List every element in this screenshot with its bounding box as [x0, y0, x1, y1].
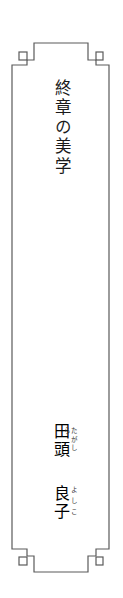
corner-square-bottom-right — [96, 557, 103, 565]
author-given-ruby: よしこ — [69, 486, 76, 519]
author-family-name: 田頭 たがしら — [52, 423, 68, 459]
book-title: 終章の美学 — [52, 79, 70, 176]
author-given-name: 良子 よしこ — [52, 485, 68, 521]
author-family-ruby: たがしら — [69, 427, 76, 459]
author-given-kanji: 良子 — [52, 485, 68, 521]
corner-square-bottom-left — [19, 557, 27, 565]
corner-square-top-right — [96, 52, 103, 60]
corner-square-top-left — [19, 52, 27, 60]
